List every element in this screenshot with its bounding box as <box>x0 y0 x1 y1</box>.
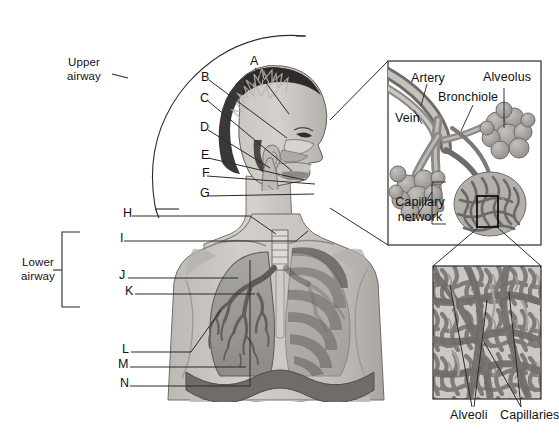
inset-label-bronchiole: Bronchiole <box>438 90 498 105</box>
callout-letter-l: L <box>122 343 129 356</box>
inset-top-connector <box>330 61 388 245</box>
callout-letter-i: I <box>120 232 123 245</box>
callout-letter-n: N <box>120 377 129 390</box>
callout-letter-j: J <box>119 269 125 282</box>
capillary-network-line2: network <box>389 210 451 225</box>
upper-airway-label: Upper airway <box>54 56 114 83</box>
lower-airway-label-line2: airway <box>8 270 68 284</box>
torso-figure <box>168 214 384 424</box>
callout-letter-m: M <box>118 358 128 371</box>
callout-letter-k: K <box>125 285 133 298</box>
lower-airway-label: Lower airway <box>8 256 68 283</box>
inset-label-alveoli: Alveoli <box>450 408 488 423</box>
callout-letter-g: G <box>200 187 210 200</box>
callout-letter-d: D <box>200 121 209 134</box>
callout-letter-b: B <box>201 71 209 84</box>
callout-letter-a: A <box>250 55 258 68</box>
inset-label-artery: Artery <box>411 71 445 86</box>
inset-label-alveolus: Alveolus <box>483 70 531 85</box>
inset-label-capillaries: Capillaries <box>500 408 559 423</box>
inset-label-capillary-network: Capillary network <box>389 195 451 225</box>
lower-airway-label-line1: Lower <box>8 256 68 270</box>
upper-airway-label-line1: Upper <box>54 56 114 70</box>
callout-letter-h: H <box>123 207 132 220</box>
callout-letter-e: E <box>201 149 209 162</box>
callout-letter-c: C <box>200 92 209 105</box>
inset-label-vein: Vein <box>395 111 420 126</box>
callout-letter-f: F <box>202 167 210 180</box>
capillary-network-line1: Capillary <box>389 195 451 210</box>
upper-airway-label-line2: airway <box>54 70 114 84</box>
